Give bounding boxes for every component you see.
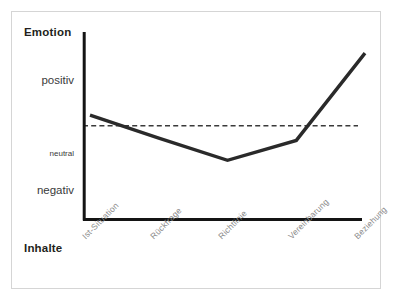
- y-tick-label-positiv: positiv: [0, 74, 74, 86]
- chart-figure: Emotion Inhalte positiv neutral negativ …: [0, 0, 393, 302]
- y-tick-label-negativ: negativ: [0, 184, 74, 196]
- y-tick-label-neutral: neutral: [0, 149, 74, 158]
- emotion-data-line: [90, 53, 365, 160]
- y-axis-title: Emotion: [24, 26, 71, 38]
- x-axis-title: Inhalte: [24, 242, 62, 254]
